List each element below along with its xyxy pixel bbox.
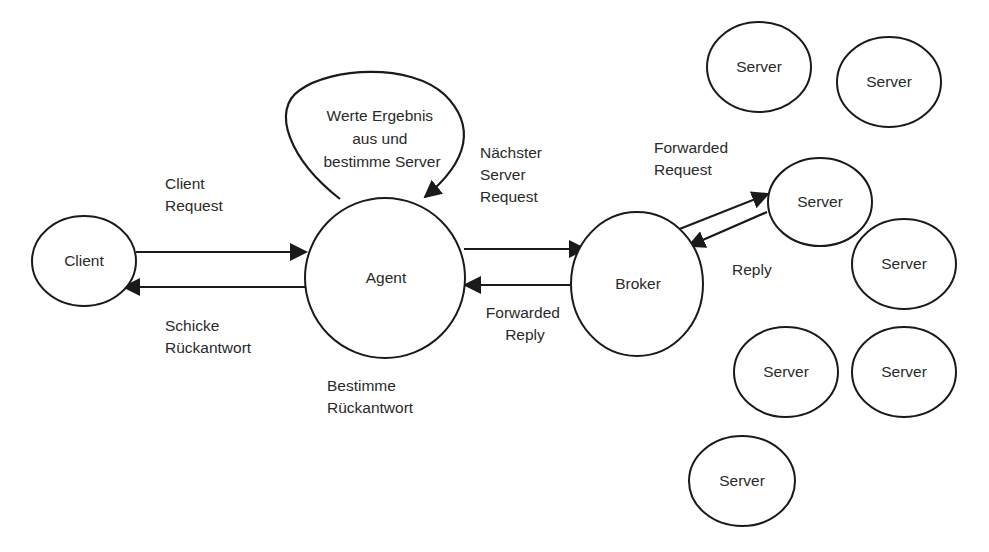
server-label: Server [797,193,843,210]
label-line: Forwarded [486,304,560,321]
label-line: Client [165,175,205,192]
label-reply: Reply [732,261,772,278]
node-server-3: Server [768,158,872,246]
label-line: bestimme Server [323,153,440,170]
label-line: Request [165,197,223,214]
label-line: Request [654,161,712,178]
node-server-7: Server [689,436,795,526]
server-nodes: Server Server Server Server Server Serve… [689,22,956,526]
label-forwarded-request: Forwarded Request [654,139,732,178]
server-label: Server [763,363,809,380]
server-label: Server [866,73,912,90]
label-line: Rückantwort [165,339,252,356]
label-line: Nächster [480,144,542,161]
node-server-5: Server [734,327,838,417]
node-broker: Broker [571,212,703,356]
label-self-loop: Werte Ergebnis aus und bestimme Server [323,107,440,170]
label-client-request: Client Request [165,175,223,214]
agent-label: Agent [366,269,407,286]
node-agent: Agent [305,198,465,358]
broker-label: Broker [615,275,661,292]
label-line: Server [480,166,526,183]
node-server-6: Server [852,327,956,417]
label-line: Schicke [165,317,219,334]
label-determine-reply: Bestimme Rückantwort [327,377,414,416]
client-label: Client [64,252,104,269]
label-line: Bestimme [327,377,396,394]
label-send-reply: Schicke Rückantwort [165,317,252,356]
label-line: Reply [505,326,545,343]
node-server-4: Server [852,219,956,309]
server-label: Server [719,472,765,489]
server-label: Server [881,255,927,272]
label-line: Werte Ergebnis [327,107,434,124]
label-line: Rückantwort [327,399,414,416]
label-forwarded-reply: Forwarded Reply [486,304,564,343]
edge-forwarded-request [677,194,768,230]
label-next-server-request: Nächster Server Request [480,144,546,205]
server-label: Server [881,363,927,380]
label-line: Forwarded [654,139,728,156]
node-server-2: Server [837,37,941,127]
node-client: Client [32,216,136,306]
label-line: Request [480,188,538,205]
agent-broker-diagram: Client Agent Broker Server Server Server… [0,0,989,552]
server-label: Server [736,58,782,75]
label-line: aus und [352,130,407,147]
edge-reply [689,212,767,246]
node-server-1: Server [707,22,811,112]
